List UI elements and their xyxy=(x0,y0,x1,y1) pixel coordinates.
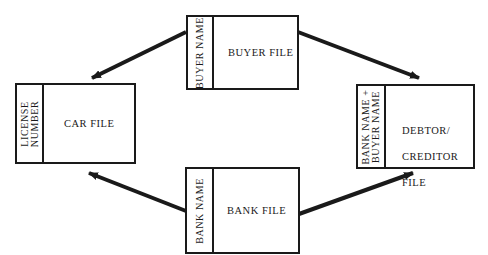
bank-file-box: BANK NAME BANK FILE xyxy=(185,167,300,254)
debtor-creditor-file-box: BANK NAME + BUYER NAME DEBTOR/ CREDITOR … xyxy=(356,84,475,169)
buyer-file-title: BUYER FILE xyxy=(228,46,293,59)
buyer-key-label: BUYER NAME xyxy=(195,17,205,89)
car-key-label: LICENSE NUMBER xyxy=(20,100,40,146)
buyer-key-strip: BUYER NAME xyxy=(188,17,214,88)
bank-file-title: BANK FILE xyxy=(227,204,286,217)
debtor-title-line2: CREDITOR xyxy=(402,150,458,163)
buyer-file-box: BUYER NAME BUYER FILE xyxy=(186,15,299,90)
debtor-creditor-file-title: DEBTOR/ CREDITOR FILE xyxy=(402,111,458,202)
bank-key-label: BANK NAME xyxy=(195,178,205,244)
arrow-bank-to-debtor xyxy=(299,173,413,214)
debtor-key-strip: BANK NAME + BUYER NAME xyxy=(358,86,386,167)
car-key-line1: LICENSE xyxy=(20,100,30,146)
car-file-title: CAR FILE xyxy=(64,117,114,130)
arrow-buyer-to-debtor xyxy=(298,32,419,78)
car-key-strip: LICENSE NUMBER xyxy=(17,85,44,162)
debtor-title-line3: FILE xyxy=(402,176,458,189)
debtor-key-label: BANK NAME + BUYER NAME xyxy=(361,89,381,164)
car-file-box: LICENSE NUMBER CAR FILE xyxy=(15,83,136,164)
car-key-line2: NUMBER xyxy=(30,100,40,146)
debtor-key-line2: BUYER NAME xyxy=(371,89,381,164)
arrow-bank-to-car xyxy=(89,173,186,211)
bank-key-strip: BANK NAME xyxy=(187,169,214,252)
debtor-title-line1: DEBTOR/ xyxy=(402,124,458,137)
arrow-buyer-to-car xyxy=(92,32,186,78)
